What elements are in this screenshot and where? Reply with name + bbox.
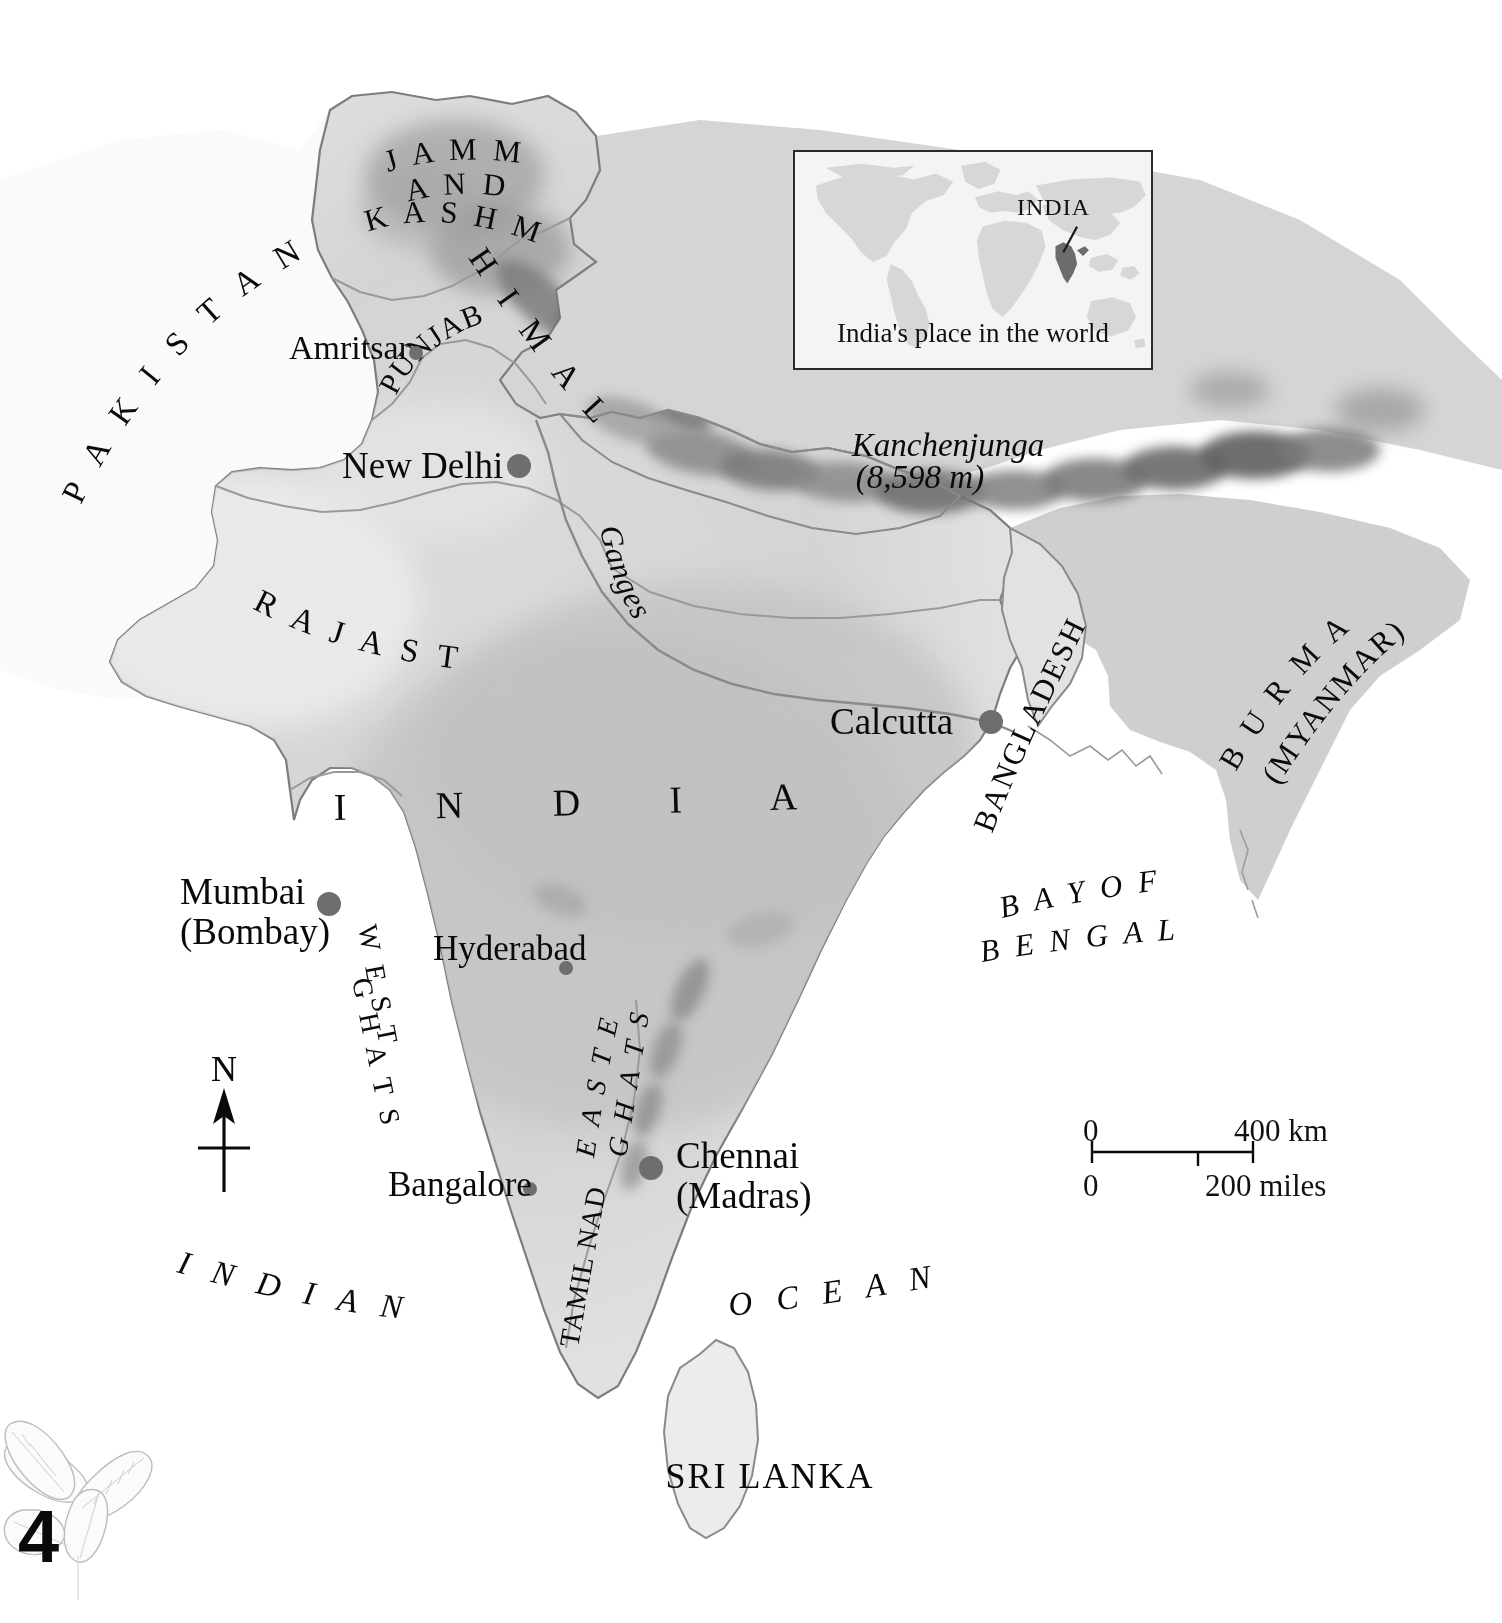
city-label-mumbai: Mumbai [180,872,330,912]
label-sri-lanka: SRI LANKA [665,1456,874,1496]
north-arrow [198,1088,250,1192]
scale-miles-end: 200 miles [1205,1168,1326,1204]
city-dot-new-delhi [507,454,531,478]
city-label-chennai-alt: (Madras) [676,1176,812,1216]
city-label-calcutta: Calcutta [830,702,953,742]
inset-india-label: INDIA [1017,194,1090,221]
sri-lanka-landmass [664,1340,758,1538]
city-label-hyderabad: Hyderabad [433,930,587,968]
city-dot-calcutta [979,710,1003,734]
label-indian-ocean-1: I N D I A N [173,1244,412,1327]
city-dot-chennai [639,1156,663,1180]
scale-miles-start: 0 [1083,1168,1099,1204]
north-label: N [211,1048,237,1090]
city-label-mumbai-alt: (Bombay) [180,912,330,952]
label-kanchenjunga-elevation: (8,598 m) [856,459,984,496]
scale-km-end: 400 km [1234,1113,1328,1149]
city-dot-amritsar [409,346,423,360]
city-label-chennai: Chennai [676,1136,812,1176]
india-map-graphic: P A K I S T A N H I M A L A Y A S R A J … [0,0,1502,1623]
world-inset-panel: INDIA India's place in the world [793,150,1153,370]
city-label-mumbai-group: Mumbai (Bombay) [180,872,330,952]
northeast-burma-landmass [1010,494,1470,900]
scale-bar-graphic [1092,1141,1253,1166]
label-kanchenjunga: Kanchenjunga [851,427,1044,463]
inset-caption: India's place in the world [795,318,1151,349]
label-indian-ocean-2: O C E A N [726,1257,941,1323]
city-label-new-delhi: New Delhi [342,446,503,486]
city-label-chennai-group: Chennai (Madras) [676,1136,812,1216]
scale-km-start: 0 [1083,1113,1099,1149]
city-label-amritsar: Amritsar [289,330,410,367]
map-page: P A K I S T A N H I M A L A Y A S R A J … [0,0,1502,1623]
city-label-bangalore: Bangalore [388,1166,532,1204]
page-number: 4 [18,1494,59,1579]
